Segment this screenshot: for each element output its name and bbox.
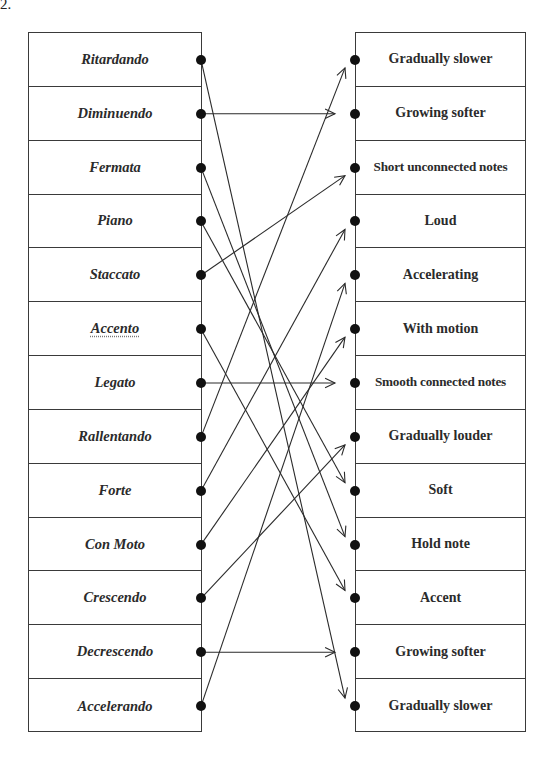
term-row: Diminuendo xyxy=(29,87,201,141)
meaning-dot xyxy=(350,486,360,496)
term-dot xyxy=(196,109,206,119)
connection-line xyxy=(201,60,345,698)
term-dot xyxy=(196,701,206,711)
term-row: Staccato xyxy=(29,248,201,302)
term-label: Ritardando xyxy=(81,51,149,68)
term-row: Con Moto xyxy=(29,518,201,572)
meaning-dot xyxy=(350,540,360,550)
term-row: Ritardando xyxy=(29,33,201,87)
term-dot xyxy=(196,432,206,442)
meaning-row: Soft xyxy=(356,464,525,518)
term-row: Decrescendo xyxy=(29,625,201,679)
arrowhead-icon xyxy=(335,337,345,348)
meaning-row: Growing softer xyxy=(356,87,525,141)
meaning-label: With motion xyxy=(403,321,479,337)
term-label: Piano xyxy=(97,212,132,229)
term-label: Accento xyxy=(91,320,139,337)
connection-line xyxy=(201,168,345,537)
arrowhead-icon xyxy=(325,109,335,119)
meaning-label: Smooth connected notes xyxy=(375,374,506,390)
meaning-label: Growing softer xyxy=(395,105,485,121)
term-dot xyxy=(196,163,206,173)
arrowhead-icon xyxy=(325,647,335,657)
meaning-row: Smooth connected notes xyxy=(356,356,525,410)
term-row: Accento xyxy=(29,302,201,356)
term-label: Legato xyxy=(94,374,135,391)
meaning-row: Loud xyxy=(356,195,525,249)
arrowhead-icon xyxy=(337,526,346,537)
arrowhead-icon xyxy=(337,68,346,79)
term-dot xyxy=(196,324,206,334)
term-dot xyxy=(196,55,206,65)
question-number: 2. xyxy=(0,0,11,13)
meaning-label: Short unconnected notes xyxy=(374,159,508,175)
connection-line xyxy=(201,337,345,544)
meaning-dot xyxy=(350,378,360,388)
arrowhead-icon xyxy=(336,579,345,590)
connection-line xyxy=(201,445,345,599)
connection-line xyxy=(201,229,345,490)
term-row: Legato xyxy=(29,356,201,410)
meaning-dot xyxy=(350,55,360,65)
term-dot xyxy=(196,378,206,388)
arrowhead-icon xyxy=(338,687,347,698)
term-dot xyxy=(196,540,206,550)
term-label: Accelerando xyxy=(78,698,153,715)
term-label: Con Moto xyxy=(85,536,145,553)
term-dot xyxy=(196,593,206,603)
terms-column: Ritardando Diminuendo Fermata Piano Stac… xyxy=(28,32,202,732)
meaning-dot xyxy=(350,109,360,119)
meaning-row: Growing softer xyxy=(356,625,525,679)
meaning-label: Gradually slower xyxy=(389,51,493,67)
meaning-label: Loud xyxy=(425,213,457,229)
term-label: Fermata xyxy=(89,159,141,176)
meaning-row: Gradually louder xyxy=(356,410,525,464)
meaning-row: With motion xyxy=(356,302,525,356)
meaning-label: Gradually louder xyxy=(389,428,493,444)
meanings-column: Gradually slower Growing softer Short un… xyxy=(355,32,526,732)
connection-line xyxy=(201,283,345,706)
meaning-row: Hold note xyxy=(356,518,525,572)
term-dot xyxy=(196,486,206,496)
term-row: Accelerando xyxy=(29,679,201,733)
arrowhead-icon xyxy=(334,176,345,186)
term-label: Crescendo xyxy=(84,589,147,606)
meaning-row: Gradually slower xyxy=(356,679,525,733)
arrowhead-icon xyxy=(325,378,335,388)
arrowhead-icon xyxy=(335,445,345,455)
connection-line xyxy=(201,221,345,482)
meaning-row: Accent xyxy=(356,571,525,625)
meaning-label: Hold note xyxy=(411,536,470,552)
term-label: Forte xyxy=(98,482,131,499)
term-label: Staccato xyxy=(90,266,141,283)
term-label: Decrescendo xyxy=(77,643,154,660)
meaning-dot xyxy=(350,432,360,442)
meaning-row: Short unconnected notes xyxy=(356,141,525,195)
term-label: Diminuendo xyxy=(78,105,153,122)
term-dot xyxy=(196,270,206,280)
term-row: Fermata xyxy=(29,141,201,195)
arrowhead-icon xyxy=(337,283,346,294)
term-label: Rallentando xyxy=(78,428,151,445)
meaning-label: Gradually slower xyxy=(389,698,493,714)
meaning-label: Accent xyxy=(420,590,461,606)
meaning-row: Gradually slower xyxy=(356,33,525,87)
meaning-dot xyxy=(350,163,360,173)
term-row: Rallentando xyxy=(29,410,201,464)
arrowhead-icon xyxy=(336,472,345,483)
meaning-label: Growing softer xyxy=(395,644,485,660)
connection-line xyxy=(201,176,345,276)
connection-line xyxy=(201,68,345,437)
term-row: Crescendo xyxy=(29,571,201,625)
meaning-label: Soft xyxy=(428,482,452,498)
arrowhead-icon xyxy=(336,229,345,240)
meaning-label: Accelerating xyxy=(403,267,478,283)
term-row: Piano xyxy=(29,195,201,249)
term-dot xyxy=(196,647,206,657)
connection-line xyxy=(201,329,345,590)
term-row: Forte xyxy=(29,464,201,518)
meaning-row: Accelerating xyxy=(356,248,525,302)
term-dot xyxy=(196,216,206,226)
